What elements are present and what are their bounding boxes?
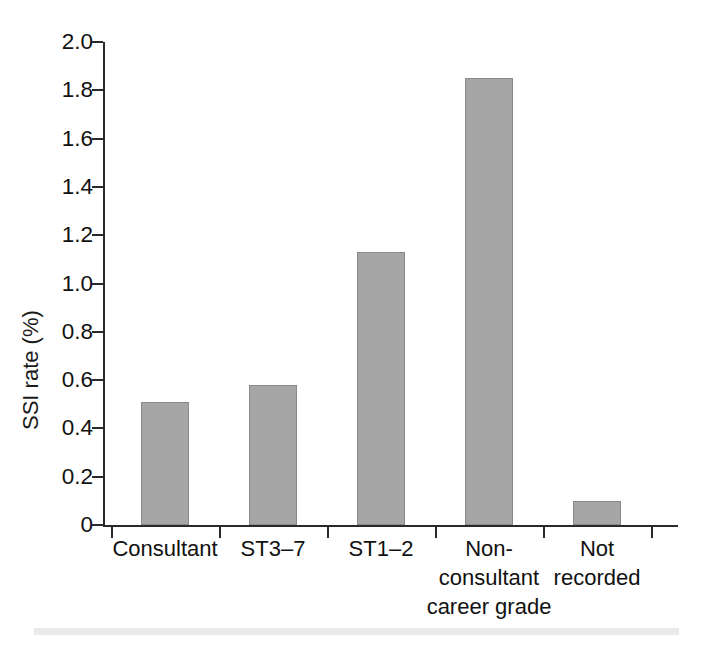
y-axis-tick-mark: [92, 283, 103, 285]
y-axis-tick-label: 0.4: [3, 417, 93, 440]
y-axis-tick-mark: [92, 476, 103, 478]
bar: [465, 78, 513, 525]
x-axis-tick-label-line: Not: [512, 534, 682, 563]
y-axis-tick-label: 1.4: [3, 176, 93, 199]
y-axis-tick-mark: [92, 379, 103, 381]
x-axis-tick-labels: ConsultantST3–7ST1–2Non-consultantcareer…: [103, 534, 678, 634]
bottom-rule: [34, 628, 679, 635]
x-axis-line: [103, 525, 678, 527]
bar: [249, 385, 297, 525]
y-axis-tick-label: 0.2: [3, 466, 93, 489]
y-axis-tick-label: 1.2: [3, 224, 93, 247]
y-axis-tick-label: 2.0: [3, 31, 93, 54]
bar: [141, 402, 189, 525]
y-axis-tick-mark: [92, 524, 103, 526]
y-axis-tick-mark: [92, 89, 103, 91]
y-axis-tick-label: 1.0: [3, 273, 93, 296]
bar-series: [103, 42, 678, 525]
y-axis-tick-mark: [92, 331, 103, 333]
y-axis-tick-label: 1.8: [3, 79, 93, 102]
x-axis-tick-label-line: recorded: [512, 563, 682, 592]
y-axis-tick-label: 0.6: [3, 369, 93, 392]
bar: [357, 252, 405, 525]
y-axis-tick-label: 0.8: [3, 321, 93, 344]
x-axis-tick-label-line: career grade: [404, 592, 574, 621]
bar-chart-figure: SSI rate (%) 00.20.40.60.81.01.21.41.61.…: [0, 0, 713, 646]
y-axis-tick-mark: [92, 427, 103, 429]
y-axis-tick-mark: [92, 234, 103, 236]
y-axis-tick-mark: [92, 41, 103, 43]
y-axis-tick-mark: [92, 186, 103, 188]
bar: [573, 501, 621, 525]
plot-area: [103, 42, 678, 525]
x-axis-tick-label: Notrecorded: [512, 534, 682, 592]
y-axis-tick-label: 1.6: [3, 128, 93, 151]
y-axis-tick-mark: [92, 138, 103, 140]
